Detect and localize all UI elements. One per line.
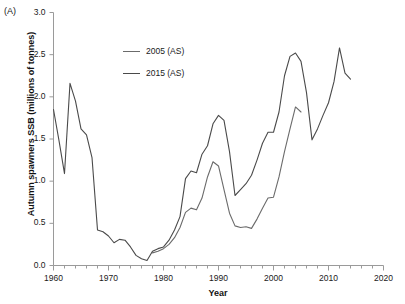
- legend-item: 2015 (AS): [123, 62, 184, 84]
- axis-lines: [54, 13, 384, 266]
- series-lines: [54, 48, 351, 261]
- chart-figure: (A) Autumn spawners SSB (millions of ton…: [0, 0, 405, 304]
- legend-label: 2015 (AS): [146, 68, 184, 78]
- series-line: [54, 48, 351, 261]
- legend-item: 2005 (AS): [123, 40, 184, 62]
- legend-label: 2005 (AS): [146, 46, 184, 56]
- legend-swatch: [123, 73, 140, 74]
- chart-legend: 2005 (AS)2015 (AS): [123, 40, 184, 84]
- legend-swatch: [123, 51, 140, 52]
- tick-marks: [50, 13, 384, 271]
- series-line: [153, 107, 302, 253]
- plot-area: [0, 0, 405, 304]
